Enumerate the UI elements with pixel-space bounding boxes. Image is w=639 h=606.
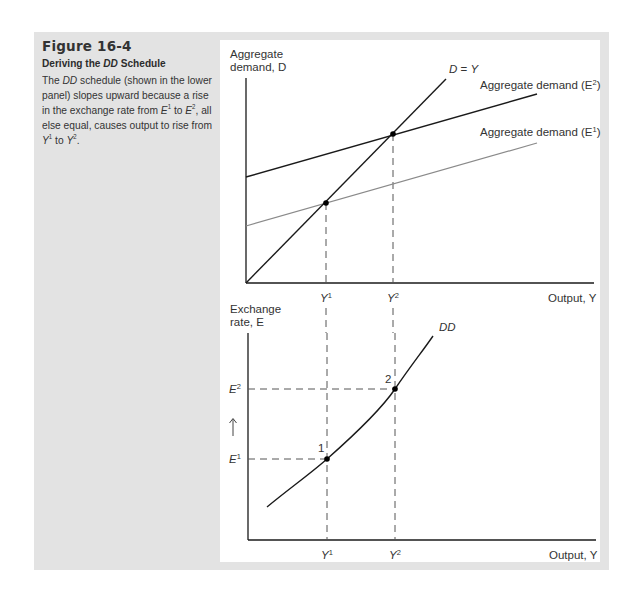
upper-tick-y1: Y1 [320,291,332,304]
point-1-dot [324,456,330,462]
equilibrium-dot-y1 [323,200,329,206]
dd-label: DD [439,321,456,333]
lower-tick-y2: Y2 [389,548,401,561]
upper-tick-y2: Y2 [387,291,399,304]
ad-e1-label: Aggregate demand (E1) [480,125,601,138]
upper-ylabel-line1: Aggregate [230,48,283,60]
point-1-label: 1 [318,442,324,454]
point-2-label: 2 [385,373,391,385]
up-arrow-icon [230,419,237,437]
lower-ylabel-line1: Exchange [230,303,281,315]
d-equals-y-label: D = Y [449,63,479,75]
lower-ylabel-line2: rate, E [230,316,264,328]
point-2-dot [392,386,398,392]
lower-tick-e2: E2 [229,382,241,395]
ad-e1-line [246,143,537,226]
upper-ylabel-line2: demand, D [230,61,286,73]
charts-svg: Aggregate demand, D D = Y Aggregate dema… [0,0,639,606]
d-equals-y-line [246,79,446,283]
equilibrium-dot-y2 [390,131,396,137]
lower-xlabel: Output, Y [549,549,598,561]
upper-chart: Aggregate demand, D D = Y Aggregate dema… [230,48,601,304]
upper-xlabel: Output, Y [548,292,597,304]
lower-chart: Exchange rate, E 1 2 DD E2 E1 Y1 Y2 Outp… [229,303,598,561]
lower-tick-y1: Y1 [321,548,333,561]
lower-tick-e1: E1 [229,452,241,465]
ad-e2-label: Aggregate demand (E2) [480,78,601,91]
dd-curve [267,336,433,507]
